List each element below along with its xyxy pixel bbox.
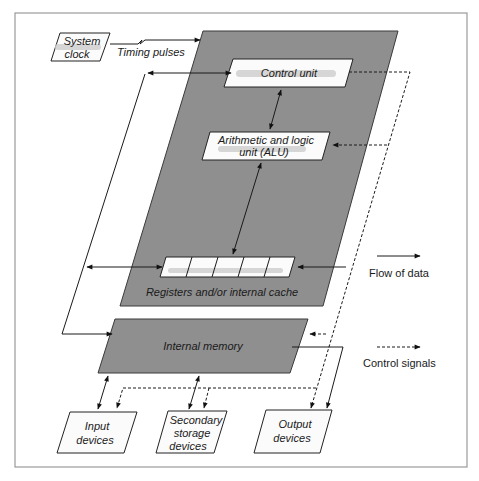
registers-label: Registers and/or internal cache [146, 286, 298, 298]
system-clock-label-1: System [64, 35, 101, 47]
alu-box: Arithmetic and logic unit (ALU) [202, 132, 330, 160]
secondary-storage-label-3: devices [169, 440, 207, 452]
secondary-storage-label-1: Secondary [170, 414, 224, 426]
output-devices-box: Output devices [254, 410, 332, 453]
output-devices-label-2: devices [273, 432, 311, 444]
secondary-storage-box: Secondary storage devices [156, 411, 227, 453]
alu-label-2: unit (ALU) [239, 146, 289, 158]
control-unit-box: Control unit [224, 59, 353, 87]
alu-label-1: Arithmetic and logic [217, 134, 314, 146]
computer-architecture-diagram: System clock Timing pulses Control unit … [0, 0, 479, 481]
output-devices-label-1: Output [278, 418, 312, 430]
timing-pulses-label: Timing pulses [117, 46, 185, 58]
system-clock-label-2: clock [64, 48, 90, 60]
internal-memory-label: Internal memory [163, 340, 244, 352]
system-clock-box: System clock [51, 33, 110, 61]
input-devices-label-1: Input [85, 420, 110, 432]
secondary-storage-label-2: storage [174, 427, 211, 439]
internal-memory-box: Internal memory [98, 319, 308, 373]
legend-control-signals: Control signals [363, 357, 436, 369]
legend-flow-of-data: Flow of data [369, 267, 430, 279]
registers-box: Registers and/or internal cache [146, 257, 298, 298]
control-unit-label: Control unit [261, 67, 318, 79]
input-devices-box: Input devices [57, 412, 137, 453]
input-devices-label-2: devices [76, 434, 114, 446]
